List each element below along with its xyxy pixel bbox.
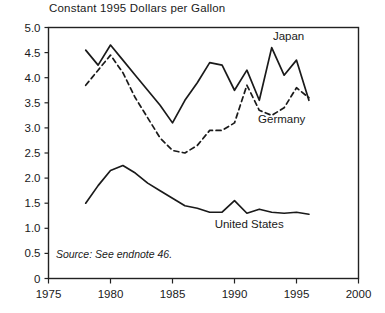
series-line-united-states <box>86 166 309 215</box>
y-tick-label: 3.0 <box>25 122 41 134</box>
x-tick-label: 1990 <box>222 288 248 300</box>
x-tick-label: 1985 <box>160 288 186 300</box>
x-axis-ticks: 197519801985199019952000 <box>36 279 372 300</box>
line-chart-plot: 00.51.01.52.02.53.03.54.04.55.0 19751980… <box>0 0 385 313</box>
x-tick-label: 1980 <box>98 288 124 300</box>
y-tick-label: 0.5 <box>25 247 41 259</box>
series-line-germany <box>86 55 309 153</box>
y-tick-label: 3.5 <box>25 97 41 109</box>
source-note: Source: See endnote 46. <box>56 248 172 260</box>
x-tick-label: 1975 <box>36 288 62 300</box>
y-tick-label: 1.0 <box>25 222 41 234</box>
x-tick-label: 1995 <box>284 288 310 300</box>
y-tick-label: 1.5 <box>25 197 41 209</box>
series-label-united-states: United States <box>215 218 284 230</box>
series-line-japan <box>86 45 309 123</box>
y-axis-ticks: 00.51.01.52.02.53.03.54.04.55.0 <box>25 22 49 285</box>
y-tick-label: 4.5 <box>25 47 41 59</box>
y-tick-label: 2.0 <box>25 172 41 184</box>
y-tick-label: 5.0 <box>25 22 41 34</box>
chart-axes <box>49 28 359 279</box>
y-tick-label: 2.5 <box>25 147 41 159</box>
series-label-germany: Germany <box>258 113 306 125</box>
data-series-group <box>86 45 309 214</box>
y-tick-label: 0 <box>34 273 40 285</box>
plot-frame <box>49 28 359 279</box>
chart-figure: Constant 1995 Dollars per Gallon 00.51.0… <box>0 0 385 313</box>
y-tick-label: 4.0 <box>25 72 41 84</box>
series-label-japan: Japan <box>273 30 304 42</box>
x-tick-label: 2000 <box>346 288 372 300</box>
